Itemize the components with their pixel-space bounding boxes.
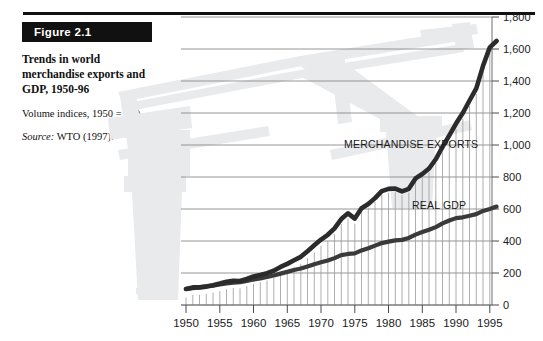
line-chart: 1,800 1,600 1,400 1,200 1,000 800 600 40… — [0, 0, 543, 341]
x-tick-label: 1995 — [477, 317, 503, 329]
x-tick-label: 1950 — [173, 317, 199, 329]
x-tick-label: 1975 — [342, 317, 368, 329]
x-tick-label: 1965 — [275, 317, 301, 329]
x-tick-label: 1970 — [308, 317, 334, 329]
y-tick-label: 1,200 — [503, 107, 531, 119]
chart-svg: 1,800 1,600 1,400 1,200 1,000 800 600 40… — [0, 0, 543, 341]
figure-page: Figure 2.1 Trends in world merchandise e… — [0, 0, 543, 341]
y-tick-label: 0 — [503, 299, 509, 311]
series-label-merchandise-exports: MERCHANDISE EXPORTS — [344, 138, 478, 150]
y-tick-label: 1,800 — [503, 11, 531, 23]
x-axis-ticks — [186, 305, 490, 313]
y-tick-label: 1,000 — [503, 139, 531, 151]
series-label-real-gdp: REAL GDP — [412, 199, 466, 211]
x-axis-tick-labels: 1950 1955 1960 1965 1970 1975 1980 1985 … — [173, 317, 502, 329]
x-tick-label: 1985 — [410, 317, 436, 329]
x-tick-label: 1955 — [207, 317, 233, 329]
y-tick-label: 800 — [503, 171, 521, 183]
y-tick-label: 200 — [503, 267, 521, 279]
x-tick-label: 1990 — [443, 317, 469, 329]
y-axis-tick-labels: 1,800 1,600 1,400 1,200 1,000 800 600 40… — [503, 11, 531, 311]
y-tick-label: 600 — [503, 203, 521, 215]
y-tick-label: 400 — [503, 235, 521, 247]
y-axis-ticks — [492, 17, 499, 305]
y-tick-label: 1,600 — [503, 43, 531, 55]
x-tick-label: 1980 — [376, 317, 402, 329]
x-tick-label: 1960 — [241, 317, 267, 329]
y-tick-label: 1,400 — [503, 75, 531, 87]
